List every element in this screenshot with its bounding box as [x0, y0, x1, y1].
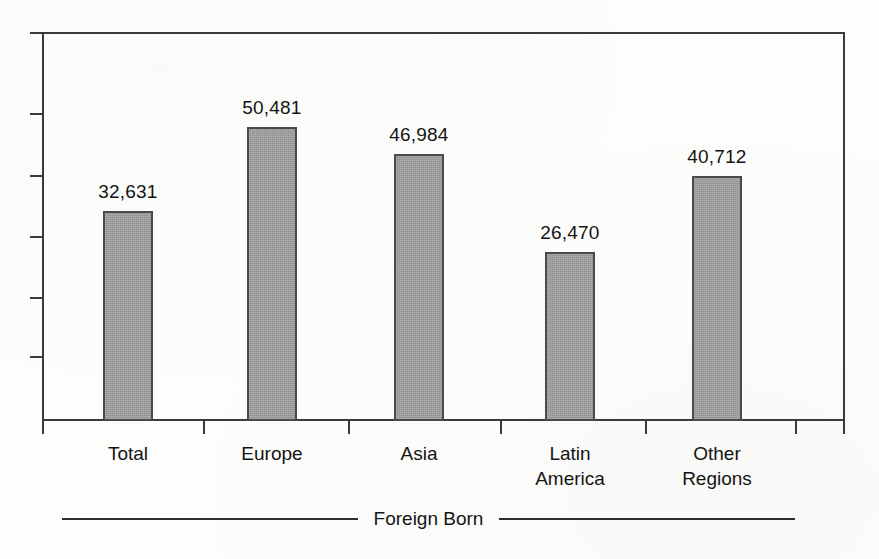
x-axis-label-asia-line1: Asia — [401, 443, 438, 464]
bar-rect-total[interactable] — [103, 211, 153, 421]
bar-value-other-regions: 40,712 — [657, 146, 777, 168]
bar-rect-latin-america[interactable] — [545, 252, 595, 421]
bar-rect-europe[interactable] — [247, 127, 297, 421]
x-axis-tick-4 — [645, 421, 647, 434]
caption-rule-left — [62, 518, 358, 520]
x-axis-label-asia: Asia — [359, 441, 479, 466]
bar-group-other-regions[interactable]: 40,712 — [692, 0, 742, 421]
bar-value-latin-america: 26,470 — [510, 222, 630, 244]
bar-value-asia: 46,984 — [359, 124, 479, 146]
x-axis-label-europe: Europe — [212, 441, 332, 466]
caption-rule-right — [499, 518, 795, 520]
x-axis-label-other-regions: Other Regions — [657, 441, 777, 491]
x-axis-label-total: Total — [68, 441, 188, 466]
x-axis-label-latin-america-line1: Latin — [549, 443, 590, 464]
x-axis-label-europe-line1: Europe — [241, 443, 302, 464]
bar-value-europe: 50,481 — [212, 97, 332, 119]
x-axis-tick-2 — [348, 421, 350, 434]
bar-group-total[interactable]: 32,631 — [103, 0, 153, 421]
x-axis-tick-0 — [42, 421, 44, 434]
y-axis-tick-2 — [30, 175, 42, 177]
chart-caption-row: Foreign Born — [62, 505, 795, 533]
x-axis-label-latin-america-line2: America — [510, 466, 630, 491]
x-axis-tick-3 — [500, 421, 502, 434]
x-axis-tick-6 — [843, 421, 845, 434]
y-axis-tick-0 — [30, 32, 42, 34]
x-axis-label-other-regions-line2: Regions — [657, 466, 777, 491]
x-axis-tick-5 — [795, 421, 797, 434]
bar-rect-asia[interactable] — [394, 154, 444, 421]
y-axis-tick-5 — [30, 356, 42, 358]
bar-value-total: 32,631 — [68, 181, 188, 203]
bar-group-europe[interactable]: 50,481 — [247, 0, 297, 421]
y-axis-tick-1 — [30, 113, 42, 115]
bar-group-asia[interactable]: 46,984 — [394, 0, 444, 421]
chart-caption-text: Foreign Born — [370, 508, 488, 530]
bar-group-latin-america[interactable]: 26,470 — [545, 0, 595, 421]
x-axis-label-latin-america: Latin America — [510, 441, 630, 491]
x-axis-label-total-line1: Total — [108, 443, 148, 464]
bar-rect-other-regions[interactable] — [692, 176, 742, 421]
y-axis-tick-3 — [30, 236, 42, 238]
x-axis-label-other-regions-line1: Other — [693, 443, 741, 464]
y-axis-tick-4 — [30, 297, 42, 299]
x-axis-tick-1 — [203, 421, 205, 434]
